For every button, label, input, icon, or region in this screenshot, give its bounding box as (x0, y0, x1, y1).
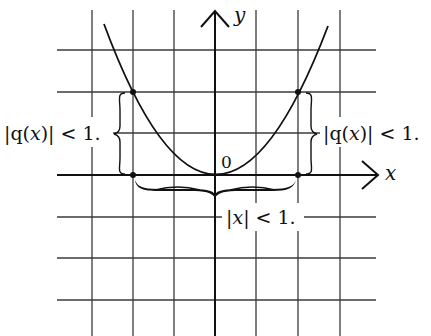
point-right-curve (295, 89, 301, 95)
origin-label: 0 (221, 152, 232, 172)
point-left-curve (130, 89, 136, 95)
right-bound-label: |q(x)| < 1. (323, 122, 420, 145)
x-axis-label: x (385, 161, 396, 185)
point-right-axis (295, 172, 301, 178)
point-left-axis (130, 172, 136, 178)
x-bound-label: |x| < 1. (226, 206, 296, 229)
parabola-diagram: 0 y x |q(x)| < 1. |q(x)| < 1. |x| < 1. (0, 0, 431, 336)
y-axis-label: y (233, 3, 246, 27)
left-bound-label: |q(x)| < 1. (4, 122, 101, 145)
